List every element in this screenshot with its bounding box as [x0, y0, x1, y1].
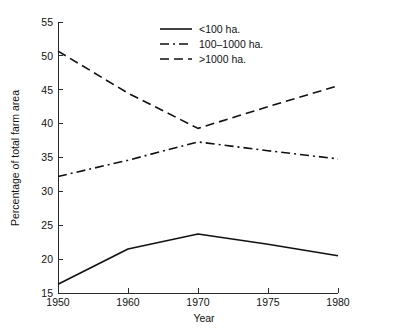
x-tick-label: 1960 — [116, 296, 140, 308]
x-tick-label: 1970 — [186, 296, 210, 308]
y-axis-title: Percentage of total farm area — [9, 90, 21, 226]
chart-figure: 15 20 25 30 35 40 45 50 55 1950 1960 197… — [0, 0, 405, 336]
legend-label-lt100: <100 ha. — [199, 23, 240, 35]
y-tick-label: 45 — [41, 84, 53, 96]
y-tick-label: 25 — [41, 219, 53, 231]
y-tick-label: 30 — [41, 185, 53, 197]
x-tick-label: 1950 — [46, 296, 70, 308]
y-tick-label: 55 — [41, 16, 53, 28]
line-chart: 15 20 25 30 35 40 45 50 55 1950 1960 197… — [0, 0, 405, 336]
legend-label-gt1000: >1000 ha. — [199, 53, 246, 65]
x-axis-title: Year — [193, 312, 215, 324]
y-tick-label: 50 — [41, 50, 53, 62]
y-axis-tick-labels: 15 20 25 30 35 40 45 50 55 — [41, 16, 53, 299]
y-tick-label: 40 — [41, 117, 53, 129]
legend-label-100-1000: 100–1000 ha. — [199, 38, 263, 50]
chart-background — [0, 0, 405, 336]
x-tick-label: 1980 — [326, 296, 350, 308]
x-tick-label: 1975 — [256, 296, 280, 308]
y-tick-label: 20 — [41, 253, 53, 265]
y-tick-label: 35 — [41, 151, 53, 163]
